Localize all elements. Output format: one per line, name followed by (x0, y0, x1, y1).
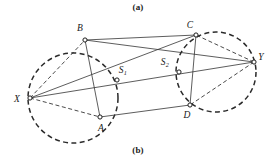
point-label-sub-s1: 1 (124, 69, 127, 76)
point-label-x: X (13, 94, 21, 104)
edge-B-C (85, 35, 196, 40)
point-label-a: A (97, 123, 104, 133)
point-label-sub-s2: 2 (166, 61, 169, 68)
point-label-y: Y (258, 52, 265, 62)
point-marker-d (188, 103, 192, 107)
point-marker-b (83, 38, 87, 42)
point-marker-s1 (115, 78, 119, 82)
chord-Y-D (190, 62, 254, 105)
solid-edges-layer (30, 35, 254, 117)
point-markers-layer (28, 33, 256, 119)
circles-layer (28, 32, 256, 143)
point-marker-a (98, 115, 102, 119)
edge-C-D (190, 35, 196, 105)
chord-X-A (30, 98, 100, 117)
point-label-c: C (187, 20, 194, 30)
edge-B-A (85, 40, 100, 117)
figure-container: (a) XYABCDS1S2 (b) (0, 0, 276, 161)
left-circle (28, 53, 118, 143)
edge-B-Y (85, 40, 254, 62)
point-marker-x (28, 96, 32, 100)
point-marker-y (252, 60, 256, 64)
edge-X-C (30, 35, 196, 98)
point-label-d: D (183, 110, 191, 120)
point-marker-s2 (177, 70, 181, 74)
figure-caption-b: (b) (0, 145, 276, 155)
point-marker-c (194, 33, 198, 37)
edge-X-Y (30, 62, 254, 98)
edge-A-D (100, 105, 190, 117)
geometry-diagram: XYABCDS1S2 (0, 0, 276, 161)
point-label-b: B (77, 23, 83, 33)
